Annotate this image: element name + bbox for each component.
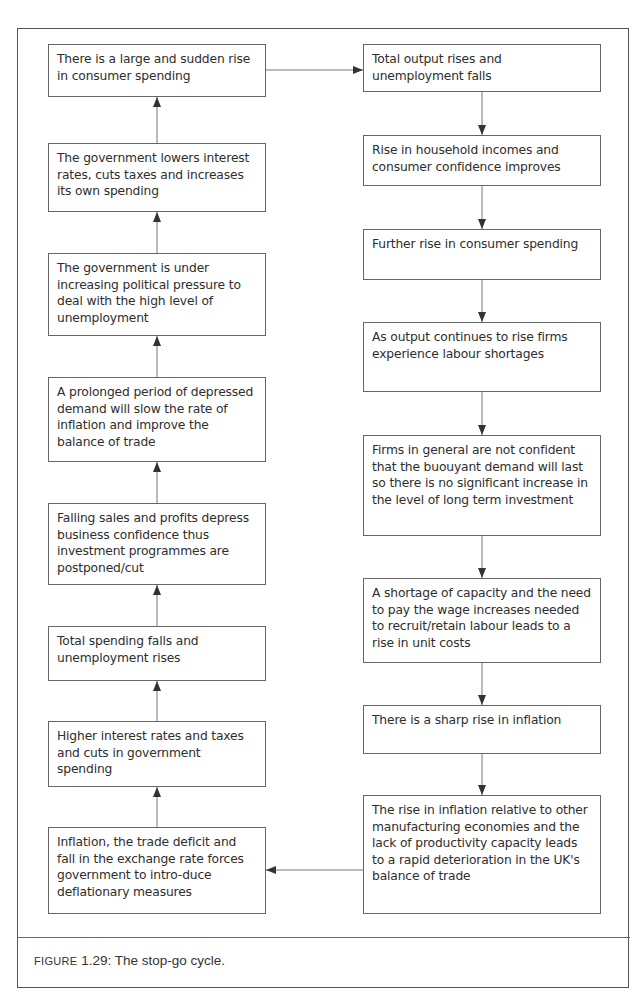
step-household-incomes-rise: Rise in household incomes and consumer c… [363, 135, 601, 186]
step-further-rise-spending: Further rise in consumer spending [363, 229, 601, 280]
step-political-pressure: The government is under increasing polit… [48, 253, 266, 336]
step-deflationary-measures: Inflation, the trade deficit and fall in… [48, 827, 266, 914]
step-sharp-inflation: There is a sharp rise in inflation [363, 705, 601, 754]
step-spending-falls: Total spending falls and unemployment ri… [48, 626, 266, 681]
caption-number: 1.29: [81, 953, 111, 968]
step-trade-deterioration: The rise in inflation relative to other … [363, 795, 601, 914]
step-no-investment-increase: Firms in general are not confident that … [363, 435, 601, 536]
step-depressed-demand: A prolonged period of depressed demand w… [48, 377, 266, 462]
figure-caption: Figure 1.29: The stop-go cycle. [34, 953, 225, 968]
step-government-lowers-rates: The government lowers interest rates, cu… [48, 143, 266, 212]
caption-prefix: Figure [34, 955, 77, 967]
step-labour-shortages: As output continues to rise firms experi… [363, 322, 601, 392]
step-large-rise-consumer-spending: There is a large and sudden rise in cons… [48, 44, 266, 97]
step-falling-sales-profits: Falling sales and profits depress busine… [48, 503, 266, 585]
step-unit-costs-rise: A shortage of capacity and the need to p… [363, 578, 601, 663]
step-higher-rates-taxes: Higher interest rates and taxes and cuts… [48, 721, 266, 787]
step-output-rises: Total output rises and unemployment fall… [363, 44, 601, 92]
caption-text: The stop-go cycle. [115, 953, 225, 968]
